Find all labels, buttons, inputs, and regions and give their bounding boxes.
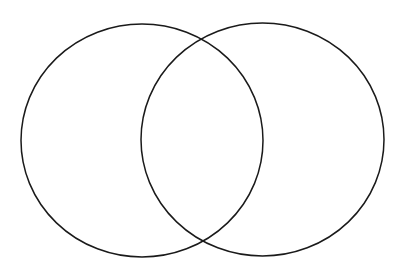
left-circle	[21, 24, 263, 257]
venn-svg	[0, 0, 404, 271]
venn-diagram	[0, 0, 404, 271]
